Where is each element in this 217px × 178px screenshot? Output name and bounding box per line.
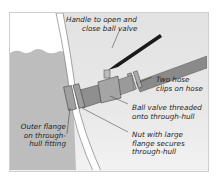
label-hose-clips: Two hose clips on hose (156, 76, 203, 93)
label-ball-valve: Ball valve threaded onto through-hull (132, 104, 202, 121)
leader-nut (82, 108, 128, 132)
label-outer-flange: Outer flange on through- hull fitting (20, 123, 66, 149)
valve-stem (104, 70, 110, 78)
ball-valve-body (98, 76, 121, 103)
label-handle: Handle to open and close ball valve (66, 16, 137, 33)
label-nut: Nut with large flange secures through-hu… (132, 131, 185, 157)
valve-handle (108, 34, 162, 70)
